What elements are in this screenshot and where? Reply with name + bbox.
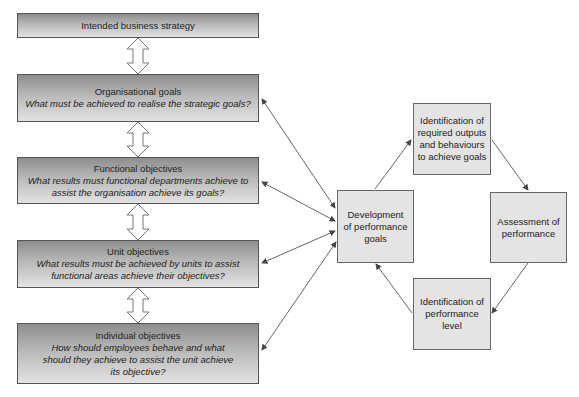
box-question: How should employees behave and what sho… [24,342,252,378]
box-label: Identification of required outputs and b… [416,115,488,163]
box-question: What results must functional departments… [24,175,252,199]
box-label: Identification of performance level [419,296,485,332]
box-organisational-goals: Organisational goals What must be achiev… [17,74,259,122]
box-title: Intended business strategy [24,20,252,32]
hierarchy-link-arrows [262,99,336,350]
box-identification-of-required-outputs: Identification of required outputs and b… [413,103,491,175]
box-title: Unit objectives [24,246,252,258]
box-unit-objectives: Unit objectives What results must be ach… [17,240,259,288]
box-title: Organisational goals [24,86,252,98]
box-title: Individual objectives [24,330,252,342]
box-assessment-of-performance: Assessment of performance [490,192,567,263]
box-individual-objectives: Individual objectives How should employe… [17,323,259,384]
box-label: Development of performance goals [344,209,408,245]
box-title: Functional objectives [24,163,252,175]
box-functional-objectives: Functional objectives What results must … [17,157,259,204]
box-label: Assessment of performance [496,216,562,240]
box-identification-of-performance-level: Identification of performance level [413,278,491,350]
box-intended-business-strategy: Intended business strategy [17,13,259,38]
box-development-of-performance-goals: Development of performance goals [337,190,414,263]
box-question: What must be achieved to realise the str… [24,98,252,110]
box-question: What results must be achieved by units t… [24,258,252,282]
